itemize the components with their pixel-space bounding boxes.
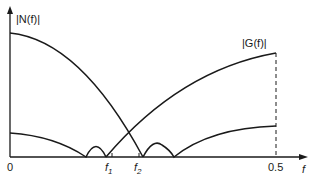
x-axis-label: f (302, 164, 305, 175)
n-curve-label: |N(f)| (16, 14, 40, 25)
f2-label: f2 (134, 162, 142, 176)
y-axis-arrow-icon (7, 6, 13, 14)
frequency-response-diagram (0, 0, 319, 179)
sidelobe-curve (10, 126, 276, 157)
g-curve (106, 53, 276, 157)
f1-label: f1 (105, 162, 113, 176)
half-freq-label: 0.5 (268, 162, 283, 173)
x-axis-arrow-icon (299, 154, 308, 160)
origin-label: 0 (7, 162, 13, 173)
g-curve-label: |G(f)| (242, 38, 267, 49)
